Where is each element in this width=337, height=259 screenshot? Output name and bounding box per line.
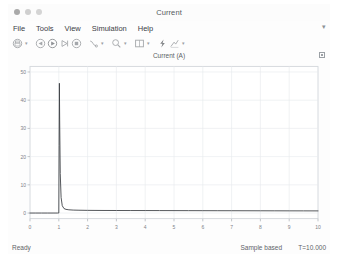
svg-text:6: 6 [201, 224, 204, 230]
step-forward-icon[interactable] [59, 38, 70, 49]
status-mode-label: Sample based [240, 244, 282, 251]
data-cursor-icon[interactable] [88, 38, 99, 49]
layout-icon[interactable] [134, 38, 145, 49]
window-titlebar: Current [8, 4, 330, 21]
run-icon[interactable] [47, 38, 58, 49]
close-button[interactable] [14, 9, 20, 15]
run-back-icon[interactable] [35, 38, 46, 49]
scope-window: Current File Tools View Simulation Help … [8, 4, 330, 254]
status-bar: Ready Sample based T=10.000 [8, 240, 330, 254]
data-cursor-dropdown-caret[interactable]: ▾ [100, 38, 105, 49]
window-title: Current [8, 8, 330, 17]
svg-text:4: 4 [144, 224, 147, 230]
svg-text:50: 50 [20, 69, 26, 75]
window-controls [14, 9, 42, 15]
highlight-signal-icon[interactable] [157, 38, 168, 49]
svg-text:0: 0 [29, 224, 32, 230]
svg-text:30: 30 [20, 125, 26, 131]
print-dropdown-caret[interactable]: ▾ [24, 38, 29, 49]
svg-text:2: 2 [86, 224, 89, 230]
layout-dropdown-caret[interactable]: ▾ [146, 38, 151, 49]
chart-area[interactable]: 01234567891001020304050 [8, 61, 324, 240]
measurements-dropdown-caret[interactable]: ▾ [181, 38, 186, 49]
menu-item-file[interactable]: File [12, 24, 26, 33]
menu-item-tools[interactable]: Tools [35, 24, 55, 33]
status-ready-label: Ready [12, 244, 31, 251]
menu-item-help[interactable]: Help [137, 24, 154, 33]
toolbar: ▾ [8, 35, 330, 51]
print-icon[interactable] [12, 38, 23, 49]
zoom-dropdown-caret[interactable]: ▾ [123, 38, 128, 49]
svg-text:5: 5 [173, 224, 176, 230]
svg-text:10: 10 [20, 182, 26, 188]
plot-title: Current (A) [8, 51, 330, 61]
svg-text:0: 0 [23, 210, 26, 216]
menu-item-view[interactable]: View [64, 24, 82, 33]
svg-text:9: 9 [288, 224, 291, 230]
svg-text:20: 20 [20, 153, 26, 159]
menu-overflow-icon[interactable]: ▾ [322, 24, 326, 30]
zoom-icon[interactable] [111, 38, 122, 49]
svg-text:10: 10 [315, 224, 321, 230]
svg-text:3: 3 [115, 224, 118, 230]
svg-text:40: 40 [20, 97, 26, 103]
status-time-label: T=10.000 [298, 244, 326, 251]
menu-item-simulation[interactable]: Simulation [91, 24, 128, 33]
menu-bar: File Tools View Simulation Help ▾ [8, 21, 330, 35]
stop-icon[interactable] [71, 38, 82, 49]
axes-maximize-badge[interactable] [319, 52, 325, 58]
minimize-button[interactable] [25, 9, 31, 15]
measurements-icon[interactable] [169, 38, 180, 49]
svg-text:8: 8 [259, 224, 262, 230]
maximize-button[interactable] [36, 9, 42, 15]
svg-text:1: 1 [57, 224, 60, 230]
svg-text:7: 7 [230, 224, 233, 230]
scope-plot[interactable]: 01234567891001020304050 [8, 61, 324, 240]
